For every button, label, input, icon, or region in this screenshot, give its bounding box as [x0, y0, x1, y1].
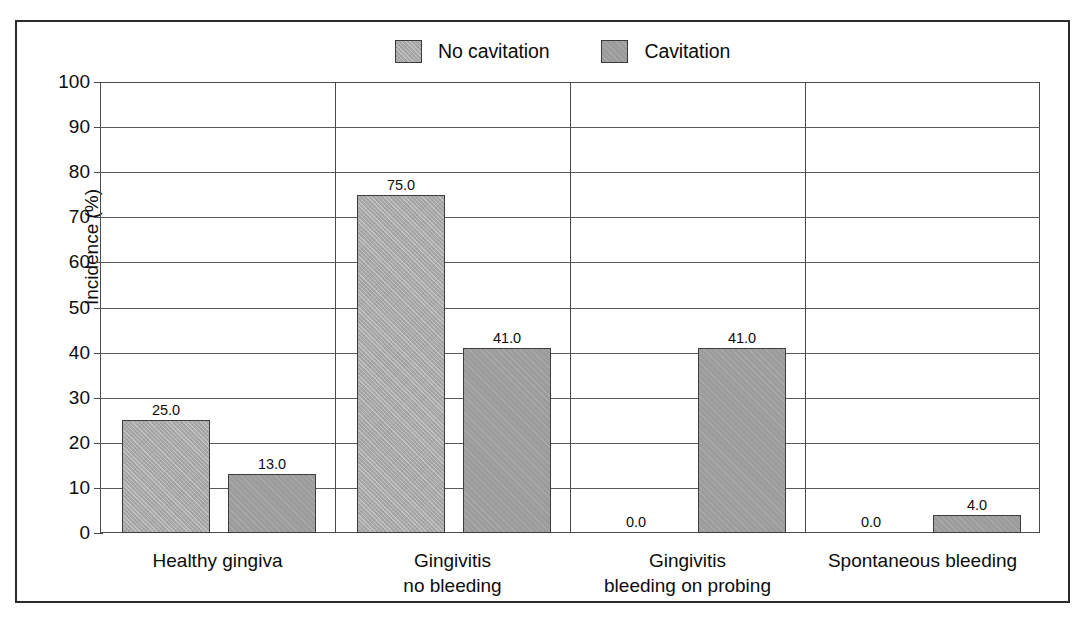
bar-gingivitis-no-bleeding-cavitation: [463, 348, 551, 533]
x-label-gingivitis-no-bleeding: Gingivitis no bleeding: [335, 548, 570, 598]
bar-label-healthy-gingiva-cavitation: 13.0: [228, 456, 316, 472]
bar-label-healthy-gingiva-no-cavitation: 25.0: [122, 402, 210, 418]
group-separator-1: [335, 82, 336, 533]
bar-chart-figure: No cavitation Cavitation Incidence (%) 1…: [0, 0, 1087, 622]
y-tick-10: 10: [38, 477, 90, 499]
y-tick-30: 30: [38, 387, 90, 409]
x-label-spontaneous-bleeding: Spontaneous bleeding: [805, 548, 1040, 573]
plot-area: 25.0 13.0 75.0 41.0 0.0 41.0 0.0 4.0: [100, 82, 1040, 533]
x-label-gingivitis-no-bleeding-line-2: no bleeding: [335, 573, 570, 598]
bar-gingivitis-bleeding-probing-cavitation: [698, 348, 786, 533]
chart-legend: No cavitation Cavitation: [395, 38, 730, 64]
y-axis-ticks: 100 90 80 70 60 50 40 30 20 10 0: [32, 82, 90, 533]
x-label-healthy-gingiva: Healthy gingiva: [100, 548, 335, 573]
y-tick-50: 50: [38, 297, 90, 319]
legend-label-no-cavitation: No cavitation: [438, 40, 549, 63]
y-tick-0: 0: [38, 522, 90, 544]
x-label-gingivitis-bleeding-probing-line-2: bleeding on probing: [570, 573, 805, 598]
y-tick-80: 80: [38, 161, 90, 183]
y-tick-mark-0: [94, 533, 103, 534]
bar-label-gingivitis-no-bleeding-no-cavitation: 75.0: [357, 177, 445, 193]
x-label-gingivitis-bleeding-probing: Gingivitis bleeding on probing: [570, 548, 805, 598]
bar-healthy-gingiva-no-cavitation: [122, 420, 210, 533]
legend-item-cavitation: Cavitation: [601, 40, 730, 63]
bar-gingivitis-no-bleeding-no-cavitation: [357, 195, 445, 533]
legend-swatch-no-cavitation-icon: [395, 40, 422, 63]
y-tick-90: 90: [38, 116, 90, 138]
bar-spontaneous-bleeding-cavitation: [933, 515, 1021, 533]
bar-label-gingivitis-no-bleeding-cavitation: 41.0: [463, 330, 551, 346]
bar-healthy-gingiva-cavitation: [228, 474, 316, 533]
x-label-spontaneous-bleeding-line-1: Spontaneous bleeding: [805, 548, 1040, 573]
y-tick-40: 40: [38, 342, 90, 364]
legend-swatch-cavitation-icon: [601, 40, 628, 63]
x-label-gingivitis-no-bleeding-line-1: Gingivitis: [335, 548, 570, 573]
group-separator-2: [570, 82, 571, 533]
x-label-gingivitis-bleeding-probing-line-1: Gingivitis: [570, 548, 805, 573]
y-tick-20: 20: [38, 432, 90, 454]
bar-label-gingivitis-bleeding-probing-cavitation: 41.0: [698, 330, 786, 346]
y-tick-100: 100: [38, 71, 90, 93]
bar-label-spontaneous-bleeding-cavitation: 4.0: [933, 497, 1021, 513]
y-tick-70: 70: [38, 206, 90, 228]
bar-label-gingivitis-bleeding-probing-no-cavitation: 0.0: [592, 514, 680, 530]
bar-label-spontaneous-bleeding-no-cavitation: 0.0: [827, 514, 915, 530]
legend-item-no-cavitation: No cavitation: [395, 40, 549, 63]
x-label-healthy-gingiva-line-1: Healthy gingiva: [100, 548, 335, 573]
y-tick-60: 60: [38, 251, 90, 273]
legend-label-cavitation: Cavitation: [644, 40, 730, 63]
group-separator-3: [805, 82, 806, 533]
